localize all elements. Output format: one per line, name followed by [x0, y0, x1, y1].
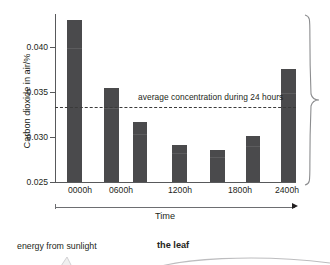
x-tick-label-1200h: 1200h	[168, 185, 192, 195]
average-concentration-line	[55, 107, 296, 108]
bar-0600h	[133, 122, 147, 182]
bar-highlight	[210, 157, 225, 158]
bar-1200h	[172, 145, 187, 182]
y-tick-label-025: 0.025	[18, 177, 48, 187]
bar-0300h	[104, 88, 119, 182]
average-concentration-label: average concentration during 24 hours	[138, 92, 283, 102]
cropped-top-text	[0, 0, 330, 9]
right-curly-brace-icon	[303, 14, 321, 186]
bar-highlight	[67, 48, 82, 49]
bar-2400h	[281, 69, 296, 182]
bar-highlight	[246, 146, 260, 147]
x-axis-line	[55, 182, 296, 183]
bar-0000h	[67, 20, 82, 182]
bar-highlight	[172, 153, 187, 154]
x-tick-label-2400h: 2400h	[275, 185, 299, 195]
figure-container: 0.040 0.035 0.030 0.025 Carbon dioxide i…	[0, 0, 330, 265]
x-tick-label-0600h: 0600h	[109, 185, 133, 195]
time-arrow-line	[55, 207, 295, 208]
the-leaf-label: the leaf	[157, 240, 189, 250]
y-axis-title: Carbon dioxide in air/%	[22, 26, 32, 176]
bar-1800h	[246, 136, 260, 182]
x-axis-title: Time	[0, 211, 330, 221]
x-tick-label-1800h: 1800h	[228, 185, 252, 195]
energy-from-sunlight-label: energy from sunlight	[17, 241, 97, 251]
bar-highlight	[133, 134, 147, 135]
time-arrow-head-icon	[292, 203, 298, 209]
bar-1500h	[210, 150, 225, 182]
x-tick-label-0000h: 0000h	[68, 185, 92, 195]
bottom-diagram-fragment: energy from sunlight the leaf	[0, 232, 330, 265]
sunlight-beam-icon	[57, 257, 73, 265]
bar-highlight	[104, 108, 119, 109]
leaf-outline-icon	[140, 254, 330, 265]
